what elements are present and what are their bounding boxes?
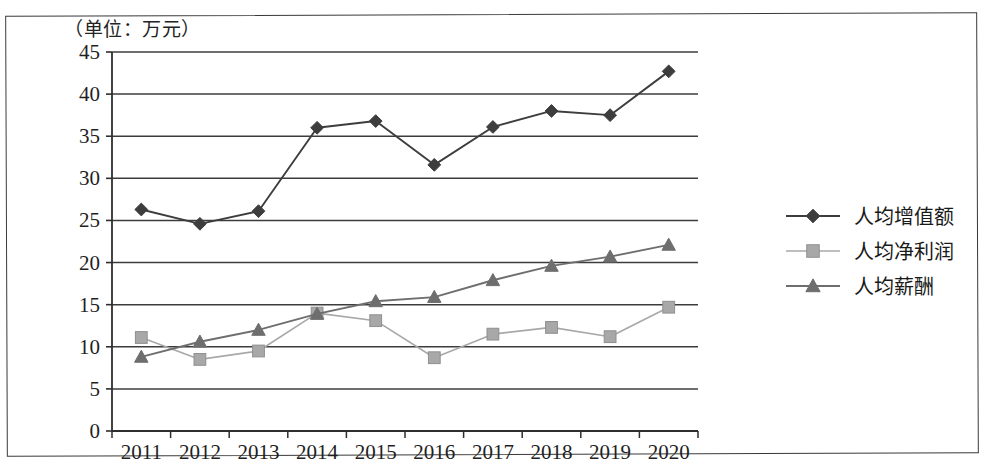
legend-label: 人均净利润 — [854, 240, 954, 264]
series-2 — [135, 301, 674, 365]
x-tick-label: 2017 — [472, 440, 514, 464]
square-marker-icon — [253, 345, 265, 357]
diamond-marker-icon — [806, 209, 820, 223]
square-marker-icon — [807, 245, 820, 258]
y-tick-label: 15 — [79, 293, 100, 317]
legend-item-3[interactable]: 人均薪酬 — [786, 275, 934, 299]
x-tick-label: 2018 — [531, 440, 573, 464]
legend-item-2[interactable]: 人均净利润 — [786, 240, 954, 264]
x-tick-label: 2020 — [648, 440, 690, 464]
series-3 — [135, 238, 676, 362]
y-tick-label: 30 — [79, 166, 100, 190]
x-tick-label: 2019 — [589, 440, 631, 464]
legend-label: 人均增值额 — [854, 205, 954, 229]
legend-item-1[interactable]: 人均增值额 — [786, 205, 954, 229]
y-tick-label: 0 — [90, 419, 101, 443]
x-tick-label: 2015 — [355, 440, 397, 464]
diamond-marker-icon — [252, 205, 265, 218]
y-tick-label: 10 — [79, 335, 100, 359]
chart-svg: 051015202530354045 201120122013201420152… — [0, 0, 990, 466]
diamond-marker-icon — [135, 203, 148, 216]
y-tick-label: 5 — [90, 377, 101, 401]
diamond-marker-icon — [487, 121, 500, 134]
y-tick-label: 35 — [79, 124, 100, 148]
square-marker-icon — [370, 315, 382, 327]
square-marker-icon — [135, 332, 147, 344]
square-marker-icon — [663, 301, 675, 313]
series-line — [141, 307, 668, 359]
y-tick-label: 45 — [79, 40, 100, 64]
x-axis — [112, 431, 698, 438]
series-1 — [135, 65, 675, 230]
triangle-marker-icon — [662, 238, 675, 250]
chart-legend: 人均增值额人均净利润人均薪酬 — [786, 205, 954, 299]
series-lines — [135, 65, 676, 365]
chart-page: （单位：万元） 051015202530354045 2011201220132… — [0, 0, 990, 466]
x-tick-label: 2013 — [238, 440, 280, 464]
y-tick-label: 20 — [79, 251, 100, 275]
square-marker-icon — [604, 331, 616, 343]
y-tick-label: 40 — [79, 82, 100, 106]
y-tick-labels: 051015202530354045 — [79, 40, 100, 443]
x-tick-label: 2016 — [413, 440, 455, 464]
x-tick-label: 2014 — [296, 440, 339, 464]
x-tick-label: 2012 — [179, 440, 221, 464]
y-tick-label: 25 — [79, 208, 100, 232]
y-axis — [106, 52, 112, 431]
x-tick-label: 2011 — [121, 440, 162, 464]
legend-label: 人均薪酬 — [854, 275, 934, 299]
diamond-marker-icon — [545, 105, 558, 118]
line-chart: 051015202530354045 201120122013201420152… — [0, 0, 990, 466]
x-tick-labels: 2011201220132014201520162017201820192020 — [121, 440, 690, 464]
square-marker-icon — [428, 352, 440, 364]
square-marker-icon — [546, 322, 558, 334]
diamond-marker-icon — [311, 121, 324, 134]
diamond-marker-icon — [194, 217, 207, 230]
square-marker-icon — [487, 328, 499, 340]
square-marker-icon — [194, 354, 206, 366]
